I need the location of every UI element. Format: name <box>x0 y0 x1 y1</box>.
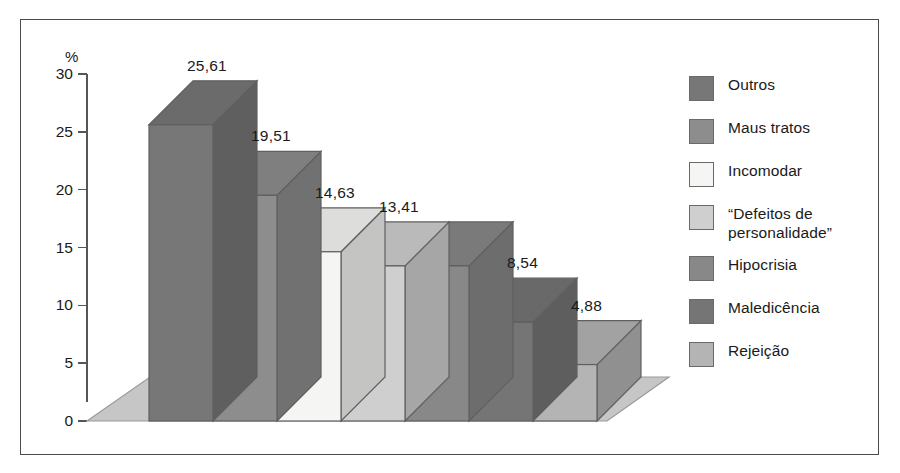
legend-swatch-icon <box>689 342 714 367</box>
legend-item-1[interactable]: Outros <box>689 75 889 101</box>
legend-swatch-icon <box>689 205 714 230</box>
bar-value-label: 4,88 <box>571 297 602 315</box>
bar-value-label: 8,54 <box>507 254 538 272</box>
legend-item-label: “Defeitos depersonalidade” <box>728 204 832 242</box>
legend-label-line-1: Outros <box>728 75 775 94</box>
legend-item-label: Hipocrisia <box>728 255 797 274</box>
bars-layer <box>21 20 681 456</box>
legend-item-label: Outros <box>728 75 775 94</box>
legend-label-line-2: personalidade” <box>728 223 832 242</box>
legend-swatch-icon <box>689 76 714 101</box>
legend-swatch-icon <box>689 299 714 324</box>
bars-svg <box>21 20 681 456</box>
legend-item-label: Maus tratos <box>728 118 810 137</box>
legend-item-4[interactable]: “Defeitos depersonalidade” <box>689 204 889 242</box>
legend-item-2[interactable]: Maus tratos <box>689 118 889 144</box>
chart-frame: % 302520151050 25,6119,5114,6313,418,544… <box>20 19 879 455</box>
legend-label-line-1: Rejeição <box>728 341 789 360</box>
legend-label-line-1: “Defeitos de <box>728 204 832 223</box>
legend-item-5[interactable]: Hipocrisia <box>689 255 889 281</box>
legend-label-line-1: Hipocrisia <box>728 255 797 274</box>
bar-value-label: 14,63 <box>315 184 355 202</box>
legend-swatch-icon <box>689 162 714 187</box>
legend-item-label: Maledicência <box>728 298 820 317</box>
bar-value-label: 13,41 <box>379 198 419 216</box>
chart-legend: OutrosMaus tratosIncomodar“Defeitos depe… <box>689 75 889 384</box>
bar-value-label: 25,61 <box>187 57 227 75</box>
legend-item-7[interactable]: Rejeição <box>689 341 889 367</box>
legend-item-label: Incomodar <box>728 161 802 180</box>
bar-value-label: 19,51 <box>251 127 291 145</box>
legend-label-line-1: Maus tratos <box>728 118 810 137</box>
legend-swatch-icon <box>689 256 714 281</box>
legend-item-3[interactable]: Incomodar <box>689 161 889 187</box>
bar-1 <box>149 81 257 421</box>
legend-label-line-1: Incomodar <box>728 161 802 180</box>
plot-area: % 302520151050 25,6119,5114,6313,418,544… <box>21 20 681 456</box>
legend-item-label: Rejeição <box>728 341 789 360</box>
legend-label-line-1: Maledicência <box>728 298 820 317</box>
legend-item-6[interactable]: Maledicência <box>689 298 889 324</box>
legend-swatch-icon <box>689 119 714 144</box>
bar-front-face <box>149 125 213 421</box>
